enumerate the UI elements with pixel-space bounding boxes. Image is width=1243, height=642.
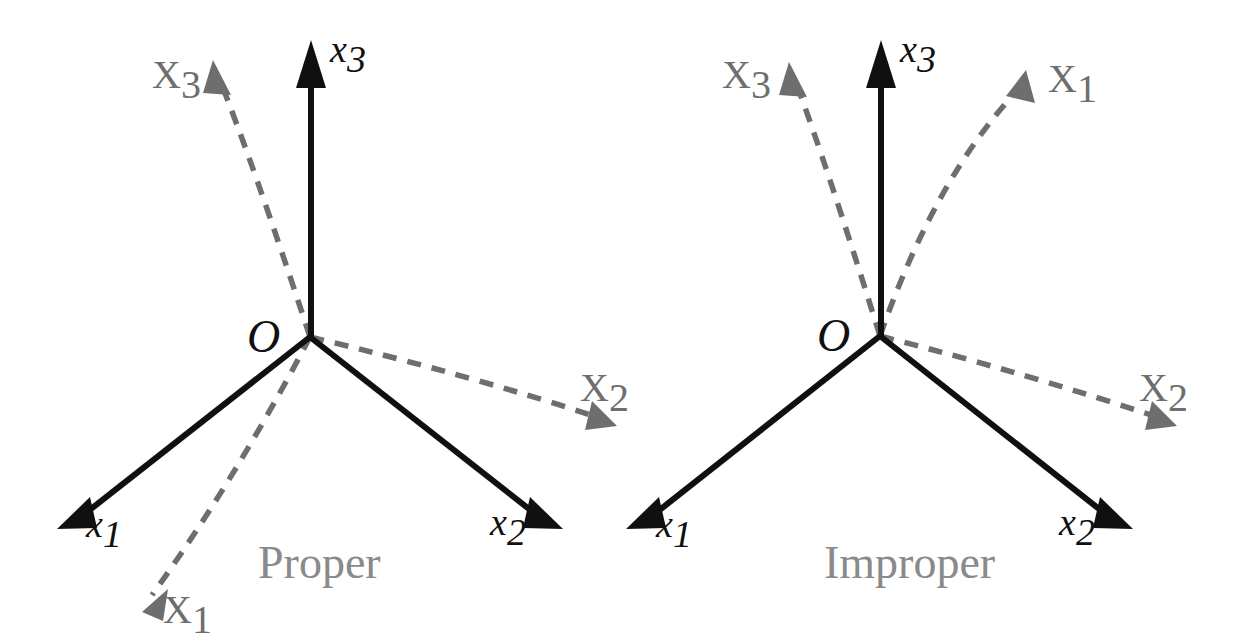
solid-frame-proper — [57, 40, 563, 529]
solid-axis-x2-label: x2 — [489, 501, 526, 553]
solid-axis-x2-arrowhead — [523, 497, 563, 529]
dashed-axis-X1-line — [880, 90, 1018, 336]
solid-axis-x2-line — [880, 336, 1108, 516]
dashed-axis-X2-line — [880, 336, 1160, 418]
origin-label-proper: O — [247, 311, 280, 362]
diagram-canvas: O x3 x1 x2 X3 X1 X2 Proper — [0, 0, 1243, 642]
dashed-axis-X3-label: X3 — [722, 52, 771, 107]
dashed-axis-X3-arrowhead — [203, 60, 231, 95]
origin-label-improper: O — [817, 310, 850, 361]
solid-axis-x3-arrowhead — [866, 40, 896, 88]
solid-axis-x1-line — [652, 336, 880, 516]
panel-caption-improper: Improper — [824, 537, 995, 588]
solid-axis-x3-label: x3 — [329, 28, 366, 80]
dashed-axis-X3-label: X3 — [152, 52, 201, 107]
solid-frame-improper — [626, 40, 1133, 529]
dashed-axis-X1-label: X1 — [163, 587, 212, 642]
solid-axis-x2-arrowhead — [1093, 497, 1133, 529]
dashed-axis-X1-label: X1 — [1048, 56, 1097, 111]
panel-proper: O x3 x1 x2 X3 X1 X2 Proper — [57, 28, 629, 642]
dashed-axis-X2-line — [310, 337, 600, 418]
panel-caption-proper: Proper — [258, 537, 381, 588]
solid-axis-x2-line — [310, 337, 538, 516]
solid-axis-x1-label: x1 — [85, 503, 122, 555]
solid-axis-x1-label: x1 — [655, 503, 692, 555]
solid-axis-x3-label: x3 — [899, 28, 936, 80]
coordinate-frames-figure: O x3 x1 x2 X3 X1 X2 Proper — [0, 0, 1243, 642]
panel-improper: O x3 x1 x2 X3 X1 X2 Improper — [626, 28, 1188, 588]
dashed-axis-X3-arrowhead — [779, 62, 807, 97]
solid-axis-x3-arrowhead — [296, 40, 326, 88]
solid-axis-x2-label: x2 — [1058, 501, 1095, 553]
dashed-axis-X3-line — [219, 78, 310, 337]
dashed-axis-X1-arrowhead — [1006, 70, 1035, 103]
dashed-axis-X3-line — [795, 80, 880, 336]
solid-axis-x1-line — [82, 337, 310, 516]
dashed-frame-improper — [779, 62, 1177, 430]
